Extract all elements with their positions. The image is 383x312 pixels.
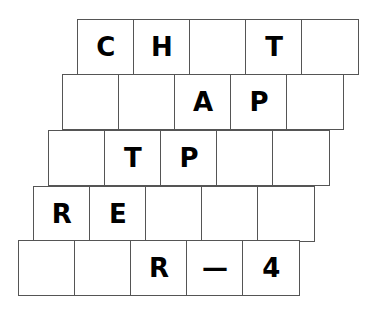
grid-cell: 4 (242, 240, 300, 296)
grid-cell: P (160, 130, 218, 186)
grid-cell (216, 130, 274, 186)
grid-cell (189, 19, 247, 75)
grid-cell (201, 186, 259, 242)
grid-cell (301, 19, 359, 75)
grid-row-4: RE (33, 186, 315, 242)
grid-row-2: AP (62, 74, 344, 130)
grid-cell: R (33, 186, 91, 242)
grid-cell: T (104, 130, 162, 186)
grid-cell: A (174, 74, 232, 130)
grid-cell (18, 240, 76, 296)
grid-cell: E (89, 186, 147, 242)
grid-cell: R (130, 240, 188, 296)
grid-cell (74, 240, 132, 296)
grid-cell: — (186, 240, 244, 296)
grid-cell (62, 74, 120, 130)
grid-cell: P (230, 74, 288, 130)
grid-cell: H (133, 19, 191, 75)
grid-cell (118, 74, 176, 130)
grid-cell: C (77, 19, 135, 75)
grid-cell (145, 186, 203, 242)
grid-row-5: R—4 (18, 240, 300, 296)
grid-row-3: TP (48, 130, 330, 186)
grid-row-1: CHT (77, 19, 359, 75)
grid-cell (257, 186, 315, 242)
grid-cell (286, 74, 344, 130)
grid-cell: T (245, 19, 303, 75)
grid-cell (272, 130, 330, 186)
grid-cell (48, 130, 106, 186)
